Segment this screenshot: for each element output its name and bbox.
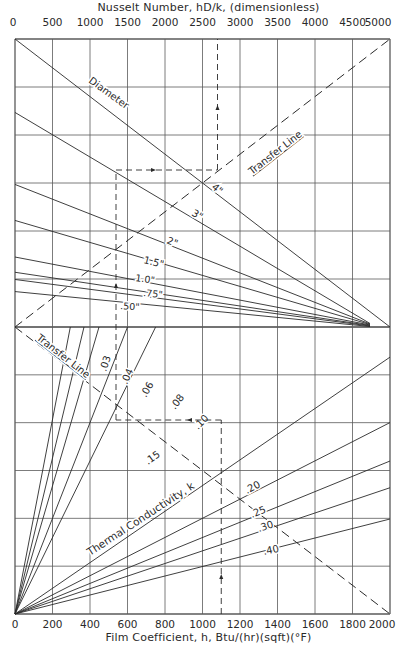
top-axis-tick: 2500 — [189, 16, 216, 28]
diameter-label: 2" — [165, 235, 179, 249]
bottom-axis-tick: 2000 — [369, 618, 396, 630]
conductivity-label: .10 — [192, 412, 211, 431]
top-axis-tick: 1500 — [114, 16, 141, 28]
diameter-line — [15, 272, 370, 325]
diameter-line — [15, 257, 370, 325]
conductivity-label: .15 — [143, 448, 162, 466]
arrow-up-icon — [114, 283, 118, 288]
bottom-axis-tick: 0 — [12, 618, 19, 630]
bottom-axis-tick: 1400 — [264, 618, 291, 630]
bottom-axis-tick: 1800 — [339, 618, 366, 630]
top-axis-tick: 4500 — [339, 16, 366, 28]
transfer-line-upper-label: Transfer Line — [246, 128, 304, 177]
diameter-label: Diameter — [87, 75, 132, 112]
conductivity-label: .04 — [119, 367, 136, 386]
top-axis-tick: 2000 — [152, 16, 179, 28]
arrow-up-icon — [219, 574, 223, 579]
arrow-right-icon — [151, 168, 156, 172]
conductivity-label: .06 — [138, 380, 155, 399]
conductivity-label: .20 — [243, 479, 262, 496]
bottom-axis-tick: 1200 — [227, 618, 254, 630]
bottom-axis-tick: 800 — [155, 618, 175, 630]
top-axis-tick: 1000 — [77, 16, 104, 28]
conductivity-label: .30 — [256, 519, 275, 534]
diameter-label: .75" — [143, 287, 164, 300]
top-axis-tick: 3000 — [227, 16, 254, 28]
bottom-axis-tick: 400 — [80, 618, 100, 630]
diameter-label: 1.5" — [143, 254, 166, 270]
bottom-axis-tick: 1600 — [302, 618, 329, 630]
bottom-axis-title: Film Coefficient, h, Btu/(hr)(sqft)(°F) — [0, 631, 417, 644]
top-axis-tick: 5000 — [365, 16, 392, 28]
transfer-line-lower-label: Transfer Line — [34, 331, 92, 380]
conductivity-label: .25 — [249, 504, 268, 520]
top-axis-tick: 500 — [42, 16, 62, 28]
bottom-axis-tick: 1000 — [189, 618, 216, 630]
top-axis-tick: 0 — [10, 16, 17, 28]
arrow-left-icon — [187, 418, 192, 422]
arrow-up-icon — [216, 105, 220, 110]
diameter-label: 1.0" — [135, 272, 156, 286]
top-axis-tick: 4000 — [302, 16, 329, 28]
bottom-axis-tick: 600 — [117, 618, 137, 630]
conductivity-label: .08 — [168, 392, 186, 411]
bottom-axis-tick: 200 — [42, 618, 62, 630]
diameter-label: .50" — [120, 300, 140, 312]
top-axis-tick: 3500 — [264, 16, 291, 28]
nomograph-chart: 0500100015002000250030003500400045005000… — [0, 0, 417, 651]
diameter-label: 4" — [210, 181, 225, 196]
